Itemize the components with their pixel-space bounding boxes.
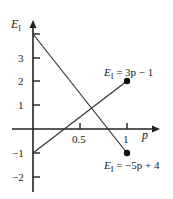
endpoint-marker bbox=[124, 78, 130, 84]
y-tick-label: 2 bbox=[18, 75, 24, 87]
y-tick-label: −2 bbox=[12, 171, 24, 183]
payoff-chart: 3 2 1 −1 −2 0.5 1 p EI EI = 3p − 1 EI = … bbox=[0, 0, 173, 199]
y-tick-label: 3 bbox=[18, 52, 24, 64]
x-tick-label: 1 bbox=[123, 133, 129, 145]
y-axis-arrow-icon bbox=[30, 20, 37, 28]
x-tick-label: 0.5 bbox=[72, 133, 86, 145]
equation-label-2: EI = −5p + 4 bbox=[103, 159, 160, 174]
x-axis-arrow-icon bbox=[152, 126, 160, 133]
y-tick-label: −1 bbox=[12, 147, 24, 159]
endpoint-marker bbox=[124, 150, 130, 156]
y-ticks bbox=[33, 34, 40, 177]
x-axis-label: p bbox=[141, 128, 148, 142]
y-axis-label: EI bbox=[10, 17, 21, 33]
y-tick-label: 1 bbox=[18, 99, 24, 111]
